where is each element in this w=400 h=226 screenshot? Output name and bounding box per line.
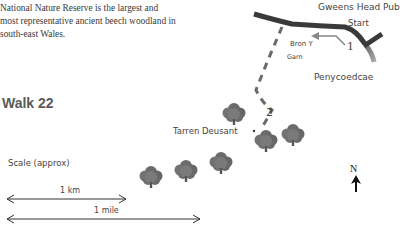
waypoint-2: 2 xyxy=(266,106,273,119)
label-pub: Gweens Head Pub xyxy=(318,2,400,12)
label-tarren-deusant: Tarren Deusant xyxy=(173,126,238,136)
label-bron-y-garn-2: Garn xyxy=(287,53,303,61)
scale-km-label: 1 km xyxy=(60,186,80,195)
label-bron-y-garn: Bron Y xyxy=(290,40,313,48)
north-arrow-icon xyxy=(351,175,361,192)
label-penycoedcae: Penycoedcae xyxy=(314,72,373,82)
label-start: Start xyxy=(348,18,369,28)
tarren-deusant-point xyxy=(253,130,255,132)
waypoint-1: 1 xyxy=(347,40,354,53)
woodland-trees xyxy=(140,103,305,188)
direction-arrow xyxy=(311,32,345,45)
compass-label: N xyxy=(350,163,357,174)
scale-bar-km xyxy=(7,195,126,203)
scale-title: Scale (approx) xyxy=(8,158,69,168)
scale-mile-label: 1 mile xyxy=(94,206,119,215)
scale-bar-mile xyxy=(7,215,200,223)
